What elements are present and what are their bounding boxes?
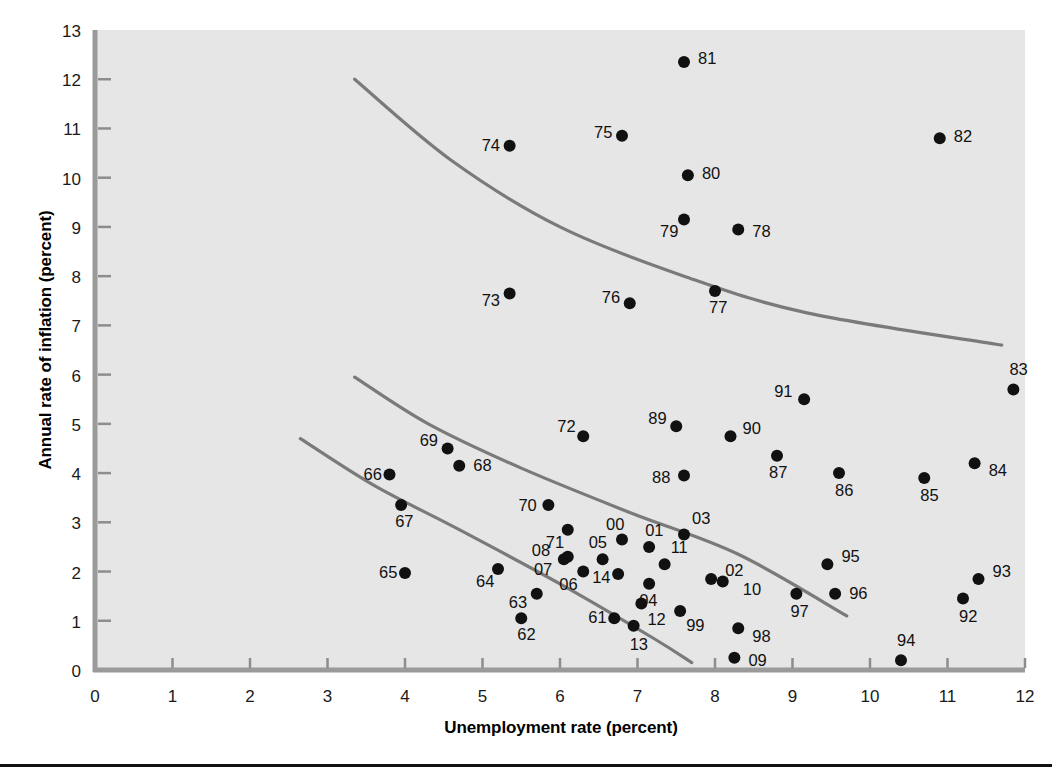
data-point-label: 90 [743, 419, 761, 437]
data-point [504, 287, 516, 299]
data-point-label: 02 [725, 561, 743, 579]
scatter-plot-svg: 0123456789101112 012345678910111213 6162… [0, 0, 1052, 779]
data-point [725, 430, 737, 442]
data-point-label: 87 [769, 463, 787, 481]
data-point-label: 79 [660, 222, 678, 240]
y-tick-label: 5 [72, 416, 81, 435]
data-point [705, 573, 717, 585]
data-point [399, 567, 411, 579]
bottom-divider-rule [0, 764, 1052, 767]
data-point [608, 612, 620, 624]
data-point-label: 13 [630, 635, 648, 653]
data-point-label: 76 [602, 288, 620, 306]
data-point-label: 65 [379, 563, 397, 581]
data-point-label: 95 [841, 547, 859, 565]
data-point [674, 605, 686, 617]
data-point [531, 588, 543, 600]
data-point [1007, 383, 1019, 395]
data-point [612, 568, 624, 580]
data-point-label: 85 [920, 486, 938, 504]
data-point [728, 652, 740, 664]
y-tick-label: 4 [72, 465, 81, 484]
data-point [682, 169, 694, 181]
data-point [771, 450, 783, 462]
data-point-label: 64 [476, 572, 494, 590]
data-point-label: 66 [364, 465, 382, 483]
data-point [918, 472, 930, 484]
data-point [616, 130, 628, 142]
data-point-label: 09 [748, 651, 766, 669]
x-tick-label: 8 [710, 687, 719, 706]
y-tick-label: 13 [62, 22, 81, 41]
x-tick-label: 9 [788, 687, 797, 706]
data-point-label: 68 [473, 456, 491, 474]
data-point-label: 94 [897, 631, 915, 649]
data-point [678, 214, 690, 226]
data-point-label: 70 [518, 496, 536, 514]
data-point-label: 10 [743, 580, 761, 598]
data-point [562, 551, 574, 563]
data-point [973, 573, 985, 585]
data-point-label: 61 [588, 608, 606, 626]
data-point-label: 77 [709, 298, 727, 316]
data-point-label: 80 [702, 164, 720, 182]
data-point-label: 74 [482, 136, 500, 154]
data-point-label: 98 [752, 627, 770, 645]
data-point [969, 457, 981, 469]
data-point [798, 393, 810, 405]
data-point [821, 558, 833, 570]
data-point [934, 132, 946, 144]
y-tick-label: 3 [72, 514, 81, 533]
x-tick-label: 10 [861, 687, 880, 706]
data-point-label: 62 [517, 625, 535, 643]
data-point-label: 97 [790, 602, 808, 620]
data-point [833, 467, 845, 479]
data-point [895, 654, 907, 666]
data-point-label: 86 [835, 481, 853, 499]
data-point [678, 470, 690, 482]
y-tick-label: 2 [72, 564, 81, 583]
data-point [717, 575, 729, 587]
x-tick-label: 5 [478, 687, 487, 706]
data-point-label: 84 [989, 461, 1007, 479]
data-point [957, 593, 969, 605]
y-tick-label: 7 [72, 317, 81, 336]
data-point-label: 73 [482, 291, 500, 309]
data-point [616, 534, 628, 546]
data-point [709, 285, 721, 297]
data-point [670, 420, 682, 432]
data-point [790, 588, 802, 600]
x-tick-label: 0 [90, 687, 99, 706]
data-point-label: 83 [1009, 360, 1027, 378]
data-point [542, 499, 554, 511]
data-point-label: 63 [509, 593, 527, 611]
x-tick-label: 3 [323, 687, 332, 706]
data-point-label: 05 [589, 533, 607, 551]
data-point [504, 140, 516, 152]
x-tick-label: 6 [555, 687, 564, 706]
y-tick-label: 6 [72, 367, 81, 386]
y-axis-title: Annual rate of inflation (percent) [36, 190, 56, 490]
x-tick-label: 7 [633, 687, 642, 706]
x-tick-label: 1 [168, 687, 177, 706]
data-point-label: 82 [954, 127, 972, 145]
data-point-label: 12 [647, 610, 665, 628]
data-point [453, 460, 465, 472]
data-point-label: 06 [559, 575, 577, 593]
data-point [732, 622, 744, 634]
data-point [624, 297, 636, 309]
y-tick-label: 9 [72, 219, 81, 238]
phillips-curve-figure: 0123456789101112 012345678910111213 6162… [0, 0, 1052, 779]
data-point [829, 588, 841, 600]
y-tick-label: 11 [63, 120, 81, 139]
data-point-label: 03 [692, 509, 710, 527]
x-axis-title: Unemployment rate (percent) [95, 718, 1027, 738]
data-point [577, 430, 589, 442]
data-point-label: 96 [849, 584, 867, 602]
data-point [643, 578, 655, 590]
data-point-label: 07 [534, 560, 552, 578]
data-point-label: 91 [774, 382, 792, 400]
data-point [678, 56, 690, 68]
data-point-label: 92 [959, 607, 977, 625]
data-point [597, 553, 609, 565]
